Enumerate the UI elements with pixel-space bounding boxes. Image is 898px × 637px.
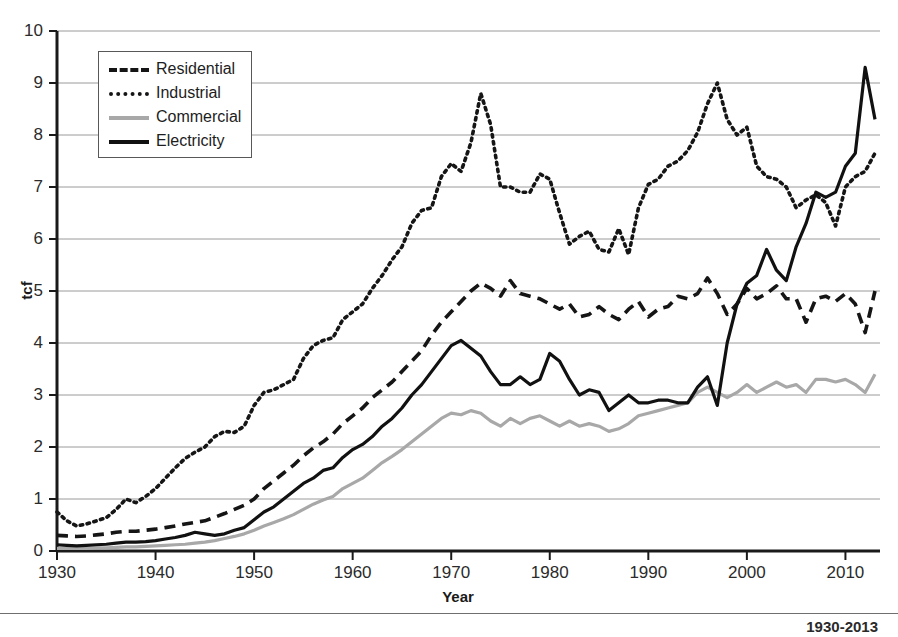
x-tick-label: 1930 xyxy=(22,564,92,581)
solid-black-line-icon xyxy=(108,134,150,148)
x-tick-label: 1940 xyxy=(121,564,191,581)
y-tick-label: 4 xyxy=(9,334,43,351)
dashed-black-line-icon xyxy=(108,62,150,76)
x-tick-label: 1970 xyxy=(416,564,486,581)
legend-item-residential[interactable]: Residential xyxy=(99,57,251,81)
line-chart: 012345678910 193019401950196019701980199… xyxy=(0,0,898,600)
legend-item-electricity[interactable]: Electricity xyxy=(99,129,251,153)
solid-gray-line-icon xyxy=(108,110,150,124)
series-line-residential xyxy=(57,278,875,536)
x-tick-label: 2000 xyxy=(712,564,782,581)
x-tick-label: 1980 xyxy=(515,564,585,581)
caption-clip: 1930-2013 xyxy=(0,621,898,637)
y-tick-label: 9 xyxy=(9,74,43,91)
legend-label: Electricity xyxy=(156,133,224,149)
chart-page: 012345678910 193019401950196019701980199… xyxy=(0,0,898,637)
x-axis-label: Year xyxy=(0,588,898,605)
x-tick-label: 2010 xyxy=(810,564,880,581)
y-tick-label: 1 xyxy=(9,490,43,507)
legend-label: Residential xyxy=(156,61,235,77)
y-tick-label: 7 xyxy=(9,178,43,195)
y-tick-label: 0 xyxy=(9,542,43,559)
x-tick-label: 1960 xyxy=(318,564,388,581)
y-tick-label: 3 xyxy=(9,386,43,403)
legend-item-commercial[interactable]: Commercial xyxy=(99,105,251,129)
y-tick-label: 8 xyxy=(9,126,43,143)
y-axis-label: tcf xyxy=(18,271,35,311)
figure-caption: 1930-2013 xyxy=(0,621,898,635)
caption-divider xyxy=(0,613,898,614)
legend-label: Commercial xyxy=(156,109,241,125)
y-tick-label: 10 xyxy=(9,22,43,39)
y-tick-label: 6 xyxy=(9,230,43,247)
chart-legend: Residential Industrial Commercial Electr… xyxy=(98,51,252,158)
x-tick-label: 1990 xyxy=(613,564,683,581)
dotted-black-line-icon xyxy=(108,86,150,100)
y-tick-label: 2 xyxy=(9,438,43,455)
legend-label: Industrial xyxy=(156,85,221,101)
legend-item-industrial[interactable]: Industrial xyxy=(99,81,251,105)
x-tick-label: 1950 xyxy=(219,564,289,581)
